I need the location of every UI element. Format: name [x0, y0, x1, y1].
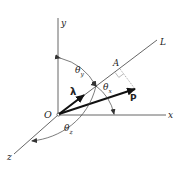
force-P-label: P [130, 93, 137, 103]
point-A-label: A [112, 58, 119, 68]
right-angle-marker [115, 73, 123, 78]
theta-x-label: θx [103, 82, 112, 94]
y-axis-label: y [60, 18, 67, 28]
unit-vector-lambda [59, 95, 84, 114]
theta-y-label: θy [75, 65, 84, 78]
x-axis-label: x [168, 110, 173, 120]
lambda-label: λ [70, 86, 77, 97]
line-L-label: L [159, 37, 166, 47]
z-axis [14, 115, 58, 154]
vector-projection-diagram: y x z L A O P λ θy θx θz [0, 0, 182, 171]
projection-line [120, 69, 135, 89]
origin-label: O [44, 109, 52, 120]
z-axis-label: z [6, 152, 12, 162]
